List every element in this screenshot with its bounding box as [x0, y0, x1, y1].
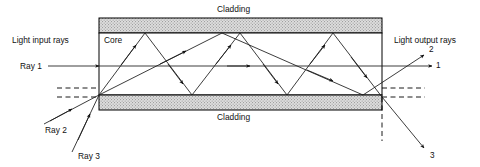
- cladding-top-label: Cladding: [217, 5, 250, 13]
- figure-canvas: Cladding Cladding Core Light input rays …: [0, 0, 480, 167]
- output-3-label: 3: [430, 152, 435, 160]
- ray-2-incoming-arrow: [50, 109, 72, 121]
- ray-2-label: Ray 2: [45, 126, 67, 134]
- output-1-label: 1: [436, 62, 441, 70]
- ray-3-output: [382, 97, 424, 148]
- core-region: [99, 33, 382, 95]
- fiber-structure: [99, 18, 382, 110]
- ray-3-incoming-arrow: [78, 114, 90, 140]
- cladding-bottom-band: [99, 95, 382, 110]
- core-label: Core: [104, 36, 122, 44]
- light-output-rays-label: Light output rays: [394, 36, 456, 44]
- light-input-rays-label: Light input rays: [12, 36, 69, 44]
- cladding-bottom-label: Cladding: [217, 113, 250, 121]
- cladding-top-band: [99, 18, 382, 33]
- ray-3-label: Ray 3: [78, 152, 100, 160]
- ray-1-label: Ray 1: [20, 62, 42, 70]
- fiber-diagram-svg: [0, 0, 480, 167]
- output-2-label: 2: [429, 46, 434, 54]
